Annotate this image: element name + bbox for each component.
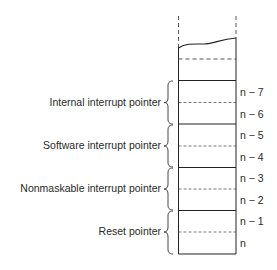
group-label-internal-interrupt: Internal interrupt pointer — [50, 96, 161, 108]
brace-icon — [164, 168, 173, 210]
brace-icon — [164, 81, 173, 124]
address-label: n − 6 — [240, 108, 264, 120]
address-label: n − 1 — [240, 215, 264, 227]
torn-edge — [179, 38, 237, 48]
brace-icon — [164, 211, 173, 254]
address-label: n − 2 — [240, 194, 264, 206]
address-label: n − 5 — [240, 129, 264, 141]
brace-icon — [164, 125, 173, 167]
group-label-reset: Reset pointer — [99, 225, 161, 237]
address-label: n − 7 — [240, 86, 264, 98]
group-label-software-interrupt: Software interrupt pointer — [43, 139, 161, 151]
address-label: n − 4 — [240, 151, 264, 163]
address-label: n — [240, 237, 246, 249]
group-label-nonmaskable-interrupt: Nonmaskable interrupt pointer — [20, 182, 161, 194]
address-label: n − 3 — [240, 172, 264, 184]
